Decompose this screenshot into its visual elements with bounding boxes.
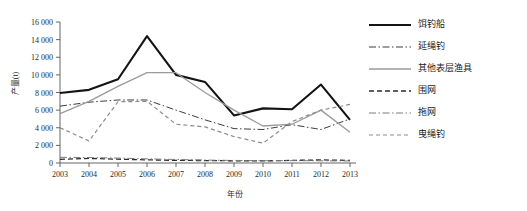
legend-label-4: 拖网	[418, 105, 436, 118]
legend-item[interactable]: 拖网	[368, 100, 527, 122]
svg-text:2008: 2008	[197, 170, 213, 179]
svg-text:0: 0	[49, 159, 53, 168]
legend-swatch-4	[368, 105, 412, 117]
chart-legend: 饵钓船 延绳钓 其他表层渔具 围网 拖网 曳绳钓	[368, 12, 527, 144]
svg-text:2 000: 2 000	[35, 141, 53, 150]
svg-text:4 000: 4 000	[35, 124, 53, 133]
svg-text:2009: 2009	[226, 170, 242, 179]
legend-swatch-1	[368, 39, 412, 51]
svg-text:2005: 2005	[110, 170, 126, 179]
legend-label-3: 围网	[418, 83, 436, 96]
legend-label-5: 曳绳钓	[418, 127, 445, 140]
x-axis-ticks: 2003200420052006200720082009201020112012…	[52, 163, 358, 179]
legend-item[interactable]: 延绳钓	[368, 34, 527, 56]
legend-item[interactable]: 其他表层渔具	[368, 56, 527, 78]
chart-figure: 产量(t) 年份 02 0004 0006 0008 00010 00012 0…	[0, 0, 527, 211]
svg-text:14 000: 14 000	[31, 36, 53, 45]
svg-text:6 000: 6 000	[35, 106, 53, 115]
legend-item[interactable]: 饵钓船	[368, 12, 527, 34]
legend-swatch-0	[368, 17, 412, 29]
series-line-0	[60, 36, 350, 120]
svg-text:2012: 2012	[313, 170, 329, 179]
legend-label-2: 其他表层渔具	[418, 61, 472, 74]
svg-text:10 000: 10 000	[31, 71, 53, 80]
svg-text:2010: 2010	[255, 170, 271, 179]
data-series-group	[60, 36, 350, 161]
legend-item[interactable]: 曳绳钓	[368, 122, 527, 144]
svg-text:2007: 2007	[168, 170, 184, 179]
y-axis-ticks: 02 0004 0006 0008 00010 00012 00014 0001…	[31, 18, 60, 168]
legend-swatch-2	[368, 61, 412, 73]
svg-text:16 000: 16 000	[31, 18, 53, 27]
svg-text:2013: 2013	[342, 170, 358, 179]
legend-item[interactable]: 围网	[368, 78, 527, 100]
svg-text:8 000: 8 000	[35, 89, 53, 98]
svg-text:12 000: 12 000	[31, 53, 53, 62]
svg-text:2003: 2003	[52, 170, 68, 179]
svg-text:2006: 2006	[139, 170, 155, 179]
legend-swatch-5	[368, 127, 412, 139]
svg-text:2011: 2011	[284, 170, 300, 179]
legend-label-0: 饵钓船	[418, 17, 445, 30]
legend-label-1: 延绳钓	[418, 39, 445, 52]
series-line-5	[60, 101, 350, 143]
series-line-1	[60, 100, 350, 130]
svg-text:2004: 2004	[81, 170, 97, 179]
legend-swatch-3	[368, 83, 412, 95]
